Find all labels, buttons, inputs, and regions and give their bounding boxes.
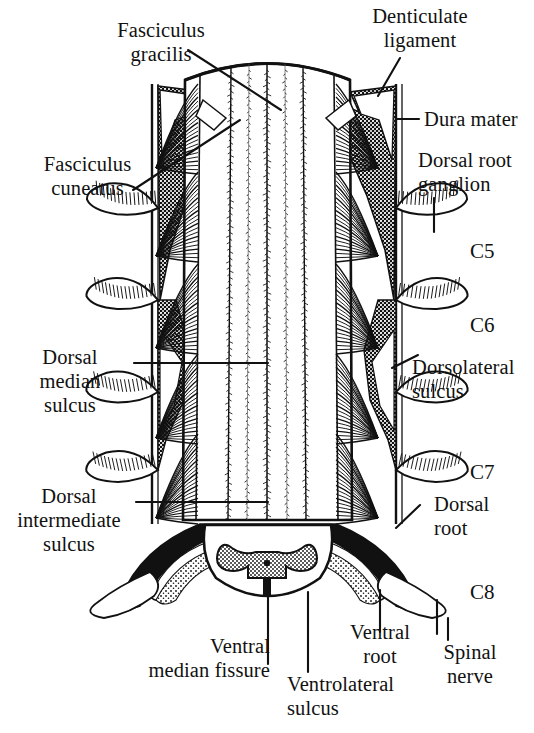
- segment-label-c7: C7: [470, 460, 520, 484]
- spinal-nerve-right: [378, 572, 446, 618]
- label-ventral-root: Ventral root: [330, 620, 430, 668]
- segment-label-c8: C8: [470, 580, 520, 604]
- spinal-nerve-left: [90, 572, 158, 618]
- label-ventrolateral-sulcus: Ventrolateral sulcus: [287, 672, 437, 720]
- dorsal-root-ganglion-left-group: [85, 175, 162, 486]
- label-dorsal-median-sulcus: Dorsal median sulcus: [5, 345, 135, 417]
- spinal-cord-figure: Fasciculus gracilis Fasciculus cuneatus …: [0, 0, 534, 733]
- label-dorsolateral-sulcus: Dorsolateral sulcus: [412, 355, 534, 403]
- label-dura-mater: Dura mater: [424, 107, 534, 131]
- segment-label-c6: C6: [470, 313, 520, 337]
- label-fasciculus-cuneatus: Fasciculus cuneatus: [10, 152, 165, 200]
- dorsal-root-ganglion-right-group: [392, 175, 469, 486]
- label-fasciculus-gracilis: Fasciculus gracilis: [66, 18, 256, 66]
- label-ventral-median-fissure: Ventral median fissure: [90, 634, 270, 682]
- label-dorsal-intermediate-sulcus: Dorsal intermediate sulcus: [0, 484, 138, 556]
- label-denticulate-ligament: Denticulate ligament: [330, 4, 510, 52]
- segment-label-c5: C5: [470, 239, 520, 263]
- label-spinal-nerve: Spinal nerve: [420, 640, 520, 688]
- central-canal: [264, 560, 270, 566]
- leader-dorsal-root: [396, 505, 420, 528]
- label-dorsal-root: Dorsal root: [434, 492, 534, 540]
- label-dorsal-root-ganglion: Dorsal root ganglion: [418, 148, 534, 196]
